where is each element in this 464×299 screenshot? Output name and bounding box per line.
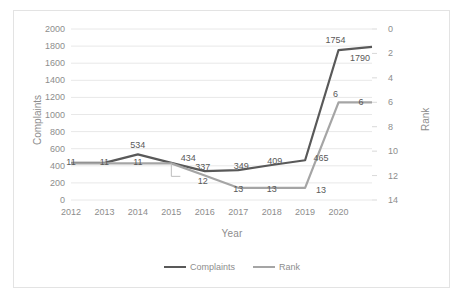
legend-swatch-icon xyxy=(164,266,186,269)
y-axis-right-tick-label: 10 xyxy=(388,146,398,156)
y-axis-right-tick-label: 14 xyxy=(388,195,398,205)
data-label-complaints: 1754 xyxy=(326,35,346,45)
y-axis-right-tick-label: 4 xyxy=(388,73,393,83)
data-label-rank: 13 xyxy=(267,184,277,194)
data-label-complaints: 434 xyxy=(181,153,196,163)
x-axis-tick-label: 2016 xyxy=(195,207,215,217)
legend-label: Complaints xyxy=(190,262,235,272)
y-axis-right-tick-label: 6 xyxy=(388,97,393,107)
y-axis-right-title: Rank xyxy=(420,107,431,130)
x-axis-tick-label: 2019 xyxy=(295,207,315,217)
x-axis-tick-label: 2015 xyxy=(161,207,181,217)
y-axis-right-tick-label: 8 xyxy=(388,122,393,132)
data-label-complaints: 349 xyxy=(234,161,249,171)
x-axis-tick-label: 2020 xyxy=(329,207,349,217)
legend-label: Rank xyxy=(279,262,300,272)
data-label-complaints: 1790 xyxy=(350,53,370,63)
data-label-rank: 6 xyxy=(358,97,363,107)
series-line-rank xyxy=(71,102,372,188)
y-axis-left-tick-label: 1400 xyxy=(0,75,65,85)
legend-item-complaints[interactable]: Complaints xyxy=(164,262,235,272)
y-axis-left-tick-label: 1600 xyxy=(0,58,65,68)
data-label-rank: 12 xyxy=(198,176,208,186)
y-axis-left-tick-label: 1800 xyxy=(0,41,65,51)
data-label-rank: 11 xyxy=(133,157,142,167)
y-axis-left-tick-label: 400 xyxy=(0,161,65,171)
x-axis-tick-label: 2014 xyxy=(128,207,148,217)
data-label-complaints: 534 xyxy=(130,140,145,150)
legend-swatch-icon xyxy=(253,266,275,269)
data-label-rank: 13 xyxy=(233,184,243,194)
x-axis-title: Year xyxy=(0,228,464,239)
data-label-rank: 11 xyxy=(100,157,109,167)
y-axis-right-tick-label: 0 xyxy=(388,24,393,34)
legend-item-rank[interactable]: Rank xyxy=(253,262,300,272)
data-label-rank: 13 xyxy=(316,185,326,195)
data-label-complaints: 337 xyxy=(195,162,210,172)
y-axis-right-tick-label: 12 xyxy=(388,171,398,181)
data-label-complaints: 465 xyxy=(314,153,329,163)
y-axis-left-title: Complaints xyxy=(32,94,43,144)
y-axis-left-tick-label: 0 xyxy=(0,195,65,205)
y-axis-left-tick-label: 200 xyxy=(0,178,65,188)
chart-legend: ComplaintsRank xyxy=(0,262,464,272)
x-axis-tick-label: 2012 xyxy=(61,207,81,217)
x-axis-tick-label: 2013 xyxy=(94,207,114,217)
data-label-rank: 6 xyxy=(333,89,338,99)
y-axis-left-tick-label: 2000 xyxy=(0,24,65,34)
y-axis-right-tick-label: 2 xyxy=(388,48,393,58)
y-axis-left-tick-label: 600 xyxy=(0,144,65,154)
data-label-complaints: 409 xyxy=(267,156,282,166)
x-axis-tick-label: 2018 xyxy=(262,207,282,217)
data-label-rank: 11 xyxy=(66,157,75,167)
x-axis-tick-label: 2017 xyxy=(228,207,248,217)
